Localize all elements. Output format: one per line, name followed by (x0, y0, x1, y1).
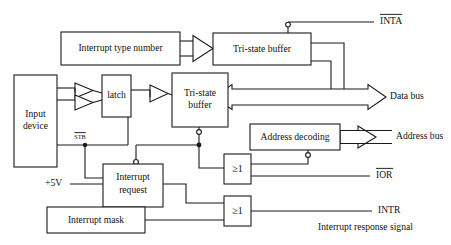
signal-label-intr: INTR (378, 204, 401, 215)
stb-junction-dot (83, 143, 87, 147)
signal-label-inta-text: INTA (380, 15, 402, 26)
top-buffer-output-wires (311, 43, 344, 89)
inta-bubble-icon (286, 22, 291, 27)
note-interrupt-response-signal: Interrupt response signal (318, 221, 413, 232)
block-diagram-canvas: Interrupt type number Tri-state buffer I… (0, 0, 451, 245)
signal-label-ior-text: IOR (376, 169, 393, 180)
block-interrupt-mask-label: Interrupt mask (68, 214, 124, 225)
block-or-gate-ior[interactable]: ≥1 (224, 154, 251, 184)
block-input-device-label-line1: Input (25, 108, 46, 119)
bus-label-data-bus: Data bus (390, 90, 424, 101)
block-latch-label: latch (107, 89, 126, 100)
buffer-enable-bubble-icon (197, 130, 202, 135)
block-interrupt-request-label-line2: request (119, 184, 147, 195)
block-address-decoding[interactable]: Address decoding (250, 124, 340, 150)
latch-in-stub-b (93, 100, 102, 103)
block-input-device[interactable]: Input device (14, 75, 57, 167)
latch-to-buffer-arrow (131, 85, 172, 102)
interrupt-type-number-to-buffer-arrow (180, 36, 213, 62)
block-tri-state-buffer-top[interactable]: Tri-state buffer (213, 33, 311, 65)
inta-wire (288, 22, 374, 33)
input-device-to-latch-arrows (57, 83, 93, 110)
block-or-gate-intr[interactable]: ≥1 (224, 196, 251, 226)
bus-label-address-bus: Address bus (396, 130, 443, 141)
block-interrupt-type-number-label: Interrupt type number (78, 42, 163, 53)
signal-label-inta: INTA (380, 14, 402, 26)
signal-label-vcc: +5V (45, 177, 62, 188)
block-tri-state-buffer-top-label: Tri-state buffer (233, 43, 292, 54)
signal-label-stb: STB (74, 133, 85, 141)
block-tri-state-buffer-main-label-line2: buffer (188, 99, 212, 110)
block-address-decoding-label: Address decoding (260, 131, 329, 142)
buffer-enable-junction-dot (197, 143, 202, 148)
signal-label-stb-text: STB (74, 133, 85, 140)
block-interrupt-request[interactable]: Interrupt request (103, 164, 163, 207)
block-or-gate-intr-label: ≥1 (232, 205, 243, 216)
block-interrupt-type-number[interactable]: Interrupt type number (61, 32, 180, 65)
block-interrupt-request-label-line1: Interrupt (116, 171, 150, 182)
address-decoding-bubble-icon (306, 153, 311, 158)
buffer-enable-wire (136, 127, 224, 168)
block-or-gate-ior-label: ≥1 (232, 163, 243, 174)
data-bus-arrow (214, 85, 386, 110)
interrupt-request-output-wire (163, 184, 224, 203)
signal-label-ior: IOR (376, 168, 393, 180)
block-latch[interactable]: latch (102, 75, 131, 117)
block-tri-state-buffer-main[interactable]: Tri-state buffer (172, 73, 228, 127)
address-decoding-output-wire (251, 150, 308, 164)
latch-in-stub-a (93, 91, 102, 94)
block-tri-state-buffer-main-label-line1: Tri-state (184, 87, 216, 98)
address-bus-arrow (340, 126, 392, 148)
block-interrupt-mask[interactable]: Interrupt mask (47, 207, 145, 233)
block-input-device-label-line2: device (23, 120, 48, 131)
